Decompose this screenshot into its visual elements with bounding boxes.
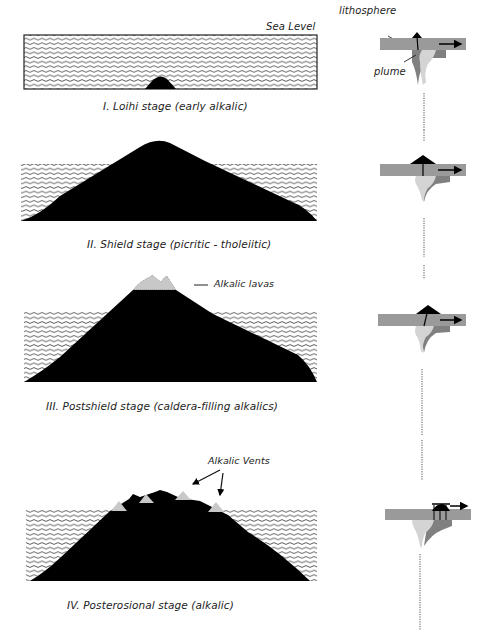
stage-3: Alkalic lavas III. Postshield stage (cal… [0,265,488,440]
stage-1-caption: I. Loihi stage (early alkalic) [103,100,248,112]
stage-3-plate-diagram [360,265,488,440]
stage-2-plate-diagram [360,130,488,265]
stage-2-caption: II. Shield stage (picritic - tholeiitic) [87,238,271,250]
stage-1-plate-diagram [360,0,488,130]
stage-2: II. Shield stage (picritic - tholeiitic) [0,130,488,265]
stage-3-caption: III. Postshield stage (caldera-filling a… [46,400,278,412]
alkalic-vents-label: Alkalic Vents [208,455,270,466]
stage-4-caption: IV. Posterosional stage (alkalic) [67,599,234,611]
stage-4-plate-diagram [360,440,488,640]
stage-1: Sea Level I. Loihi stage (early alkalic)… [0,0,488,130]
alkalic-lavas-leader-line [0,265,360,305]
alkalic-lavas-label: Alkalic lavas [214,278,274,289]
stage-4: Alkalic Vents IV. Posterosional stage (a… [0,440,488,640]
